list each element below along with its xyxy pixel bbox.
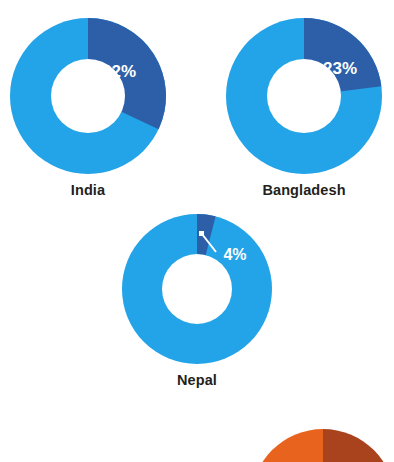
donut-svg-partial-orange: [252, 426, 394, 462]
chart-panel: 32% India 23% Bangladesh 4% Nepal: [0, 0, 394, 462]
donut-svg-india: 32%: [6, 14, 170, 178]
donut-left-segment-orange: [252, 429, 323, 462]
caption-bangladesh: Bangladesh: [214, 182, 394, 198]
donut-right-segment-orange: [323, 429, 394, 462]
donut-chart-nepal: 4%: [118, 210, 276, 368]
value-label-nepal: 4%: [223, 246, 246, 263]
value-label-bangladesh: 23%: [323, 59, 357, 78]
callout-marker-nepal: [199, 231, 204, 236]
caption-india: India: [6, 182, 170, 198]
donut-svg-nepal: 4%: [118, 210, 276, 368]
donut-chart-partial-orange: [252, 426, 394, 462]
value-label-india: 32%: [102, 62, 136, 81]
donut-chart-bangladesh: 23%: [222, 14, 386, 178]
donut-hole-nepal: [162, 254, 232, 324]
caption-nepal: Nepal: [118, 372, 276, 388]
donut-svg-bangladesh: 23%: [222, 14, 386, 178]
donut-chart-india: 32%: [6, 14, 170, 178]
